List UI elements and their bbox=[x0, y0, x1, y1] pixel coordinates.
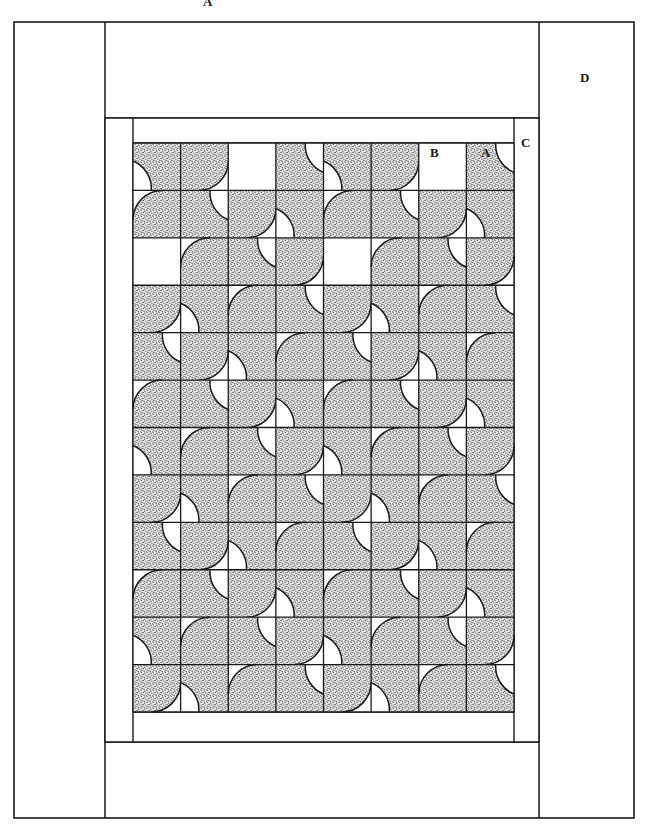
quilt-cell-bg bbox=[324, 238, 372, 285]
label-C-inner-border: C bbox=[521, 136, 531, 149]
quilt-cell-bg bbox=[133, 238, 181, 285]
quilt-diagram-svg bbox=[0, 0, 648, 840]
quilt-cell-bg bbox=[228, 143, 276, 190]
label-A-top: A bbox=[203, 0, 213, 8]
quilt-diagram: A B A C D bbox=[0, 0, 648, 840]
label-D-outer-border: D bbox=[580, 71, 590, 84]
quilt-cell-bg bbox=[419, 143, 467, 190]
label-A-unit: A bbox=[481, 146, 491, 159]
label-B-plain: B bbox=[430, 146, 439, 159]
